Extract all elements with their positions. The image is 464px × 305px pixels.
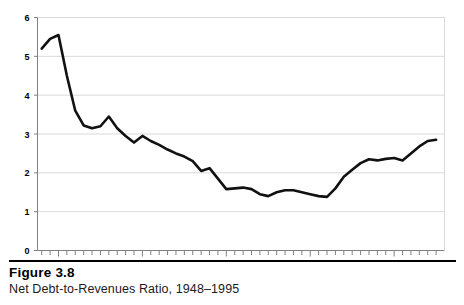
- y-tick-label: 6: [24, 13, 29, 23]
- x-axis-ticks: [42, 251, 436, 257]
- y-tick-label: 0: [24, 246, 29, 256]
- y-tick-label: 3: [24, 130, 29, 140]
- y-tick-label: 5: [24, 52, 29, 62]
- y-tick-label: 4: [24, 91, 29, 101]
- figure-caption: Figure 3.8 Net Debt-to-Revenues Ratio, 1…: [9, 260, 449, 297]
- y-axis-tick-labels: 0123456: [24, 13, 29, 256]
- chart-plot-area: 0123456 19501960197019801990: [0, 0, 464, 262]
- figure-container: 0123456 19501960197019801990 Figure 3.8 …: [0, 0, 464, 305]
- caption-divider: [9, 260, 456, 262]
- line-chart: 0123456 19501960197019801990: [0, 0, 464, 262]
- y-tick-label: 1: [24, 207, 29, 217]
- figure-title-label: Net Debt-to-Revenues Ratio, 1948–1995: [9, 281, 449, 297]
- y-tick-label: 2: [24, 168, 29, 178]
- figure-number-label: Figure 3.8: [9, 265, 449, 280]
- gridlines: [38, 18, 445, 212]
